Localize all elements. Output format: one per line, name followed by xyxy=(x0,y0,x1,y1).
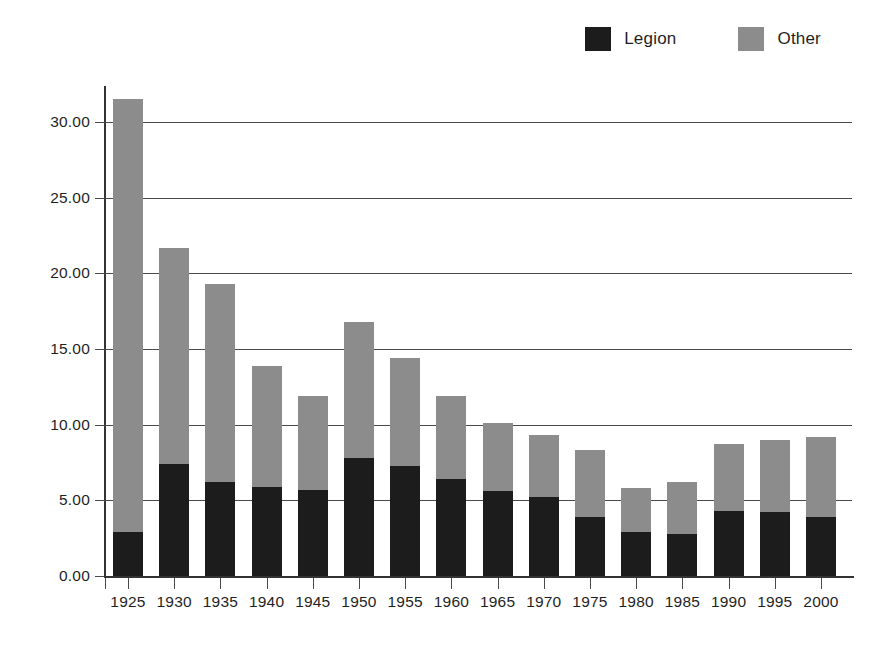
x-tick-label: 1935 xyxy=(203,593,238,611)
bar-stack[interactable] xyxy=(806,437,836,576)
bar-segment-other[interactable] xyxy=(252,366,282,487)
x-tick-mark xyxy=(775,578,776,589)
y-tick-label: 25.00 xyxy=(50,189,90,207)
bar-segment-other[interactable] xyxy=(714,444,744,511)
bar-segment-other[interactable] xyxy=(806,437,836,517)
x-tick-mark xyxy=(544,578,545,589)
x-tick-label: 1930 xyxy=(157,593,192,611)
bar-stack[interactable] xyxy=(529,435,559,576)
bar-segment-other[interactable] xyxy=(529,435,559,497)
y-tick-label: 0.00 xyxy=(59,567,90,585)
y-tick-label: 15.00 xyxy=(50,340,90,358)
x-axis-origin-tick xyxy=(105,578,106,589)
stacked-bar-chart: 0.005.0010.0015.0020.0025.0030.00 192519… xyxy=(0,0,879,648)
x-tick-mark xyxy=(636,578,637,589)
bar-segment-legion[interactable] xyxy=(436,479,466,576)
bar-segment-legion[interactable] xyxy=(529,497,559,576)
y-tick-mark xyxy=(95,122,104,123)
x-tick-label: 1965 xyxy=(480,593,515,611)
x-tick-label: 1985 xyxy=(665,593,700,611)
bar-stack[interactable] xyxy=(344,322,374,576)
bar-segment-legion[interactable] xyxy=(806,517,836,576)
bar-stack[interactable] xyxy=(667,482,697,576)
x-tick-mark xyxy=(405,578,406,589)
bar-segment-other[interactable] xyxy=(667,482,697,533)
bar-segment-other[interactable] xyxy=(298,396,328,490)
bar-segment-other[interactable] xyxy=(575,450,605,517)
x-tick-label: 1960 xyxy=(434,593,469,611)
bar-segment-legion[interactable] xyxy=(113,532,143,576)
bar-stack[interactable] xyxy=(621,488,651,576)
bar-stack[interactable] xyxy=(575,450,605,576)
x-tick-label: 1980 xyxy=(619,593,654,611)
x-tick-label: 2000 xyxy=(803,593,838,611)
bar-segment-legion[interactable] xyxy=(159,464,189,576)
y-tick-mark xyxy=(95,500,104,501)
plot-area: 0.005.0010.0015.0020.0025.0030.00 xyxy=(104,86,852,576)
bar-segment-legion[interactable] xyxy=(621,532,651,576)
x-tick-mark xyxy=(359,578,360,589)
bar-stack[interactable] xyxy=(390,358,420,576)
x-tick-label: 1950 xyxy=(341,593,376,611)
x-tick-label: 1925 xyxy=(110,593,145,611)
x-tick-label: 1945 xyxy=(295,593,330,611)
y-tick-mark xyxy=(95,273,104,274)
bar-segment-other[interactable] xyxy=(760,440,790,513)
x-tick-label: 1990 xyxy=(711,593,746,611)
x-tick-label: 1955 xyxy=(388,593,423,611)
x-tick-mark xyxy=(451,578,452,589)
bar-segment-other[interactable] xyxy=(113,99,143,532)
x-tick-mark xyxy=(128,578,129,589)
bar-segment-other[interactable] xyxy=(344,322,374,458)
bar-segment-other[interactable] xyxy=(390,358,420,465)
bar-segment-legion[interactable] xyxy=(390,466,420,576)
bar-segment-legion[interactable] xyxy=(298,490,328,576)
bar-stack[interactable] xyxy=(298,396,328,576)
x-tick-mark xyxy=(174,578,175,589)
bar-stack[interactable] xyxy=(205,284,235,576)
x-tick-mark xyxy=(498,578,499,589)
y-tick-mark xyxy=(95,198,104,199)
bar-stack[interactable] xyxy=(714,444,744,576)
y-tick-label: 20.00 xyxy=(50,264,90,282)
bar-segment-legion[interactable] xyxy=(575,517,605,576)
bar-segment-legion[interactable] xyxy=(667,534,697,576)
bar-segment-legion[interactable] xyxy=(344,458,374,576)
bar-segment-legion[interactable] xyxy=(483,491,513,576)
bar-stack[interactable] xyxy=(483,423,513,576)
y-tick-label: 30.00 xyxy=(50,113,90,131)
y-tick-label: 5.00 xyxy=(59,491,90,509)
bar-series-container xyxy=(104,86,852,576)
bar-segment-legion[interactable] xyxy=(252,487,282,576)
bar-stack[interactable] xyxy=(760,440,790,576)
bar-segment-other[interactable] xyxy=(159,248,189,464)
x-tick-mark xyxy=(267,578,268,589)
y-tick-mark xyxy=(95,349,104,350)
y-tick-mark xyxy=(95,576,104,577)
bar-segment-other[interactable] xyxy=(483,423,513,491)
x-tick-mark xyxy=(220,578,221,589)
x-tick-label: 1995 xyxy=(757,593,792,611)
x-tick-mark xyxy=(313,578,314,589)
y-tick-mark xyxy=(95,425,104,426)
bar-stack[interactable] xyxy=(252,366,282,576)
bar-segment-legion[interactable] xyxy=(714,511,744,576)
bar-segment-legion[interactable] xyxy=(760,512,790,576)
bar-segment-other[interactable] xyxy=(436,396,466,479)
x-tick-mark xyxy=(729,578,730,589)
x-axis-line xyxy=(104,576,854,578)
bar-segment-legion[interactable] xyxy=(205,482,235,576)
x-tick-label: 1940 xyxy=(249,593,284,611)
x-tick-mark xyxy=(590,578,591,589)
bar-segment-other[interactable] xyxy=(205,284,235,482)
bar-segment-other[interactable] xyxy=(621,488,651,532)
x-tick-label: 1970 xyxy=(526,593,561,611)
bar-stack[interactable] xyxy=(113,99,143,576)
x-tick-label: 1975 xyxy=(572,593,607,611)
bar-stack[interactable] xyxy=(436,396,466,576)
x-tick-mark xyxy=(682,578,683,589)
bar-stack[interactable] xyxy=(159,248,189,576)
x-tick-mark xyxy=(821,578,822,589)
y-tick-label: 10.00 xyxy=(50,416,90,434)
